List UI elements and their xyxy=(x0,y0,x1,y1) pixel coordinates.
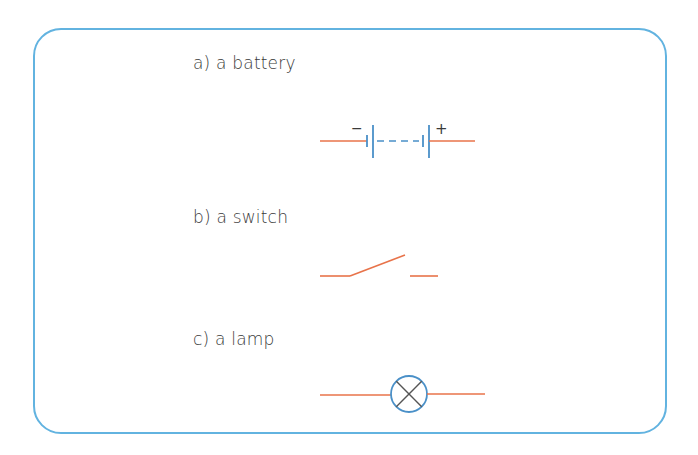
lamp-symbol-icon xyxy=(320,376,485,412)
positive-terminal: + xyxy=(435,120,448,138)
battery-symbol-icon: − + xyxy=(320,120,475,158)
circuit-symbols: − + xyxy=(0,0,698,455)
switch-symbol-icon xyxy=(320,255,438,276)
negative-terminal: − xyxy=(351,120,363,136)
